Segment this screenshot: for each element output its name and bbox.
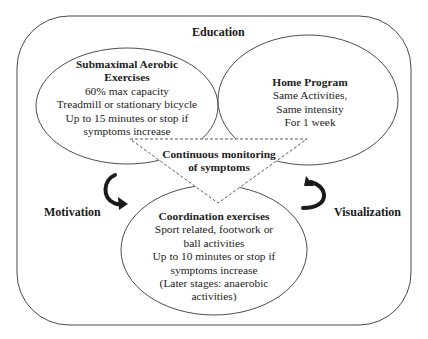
node-line: Sport related, footwork or bbox=[139, 223, 289, 236]
node-line: symptoms increase bbox=[37, 125, 217, 138]
curved-arrow-right-icon bbox=[303, 176, 324, 208]
curved-arrow-left-icon bbox=[105, 175, 128, 210]
visualization-label: Visualization bbox=[334, 205, 401, 220]
node-line: Treadmill or stationary bicycle bbox=[37, 98, 217, 111]
node-submaximal-aerobic: Submaximal Aerobic Exercises 60% max cap… bbox=[37, 58, 217, 138]
node-home-program: Home Program Same Activities, Same inten… bbox=[250, 76, 370, 130]
node-title: Submaximal Aerobic bbox=[37, 58, 217, 71]
node-line: Up to 15 minutes or stop if bbox=[37, 112, 217, 125]
monitoring-label: Continuous monitoring of symptoms bbox=[154, 148, 284, 175]
node-line: (Later stages: anaerobic bbox=[139, 277, 289, 290]
node-line: ball activities bbox=[139, 237, 289, 250]
node-line: symptoms increase bbox=[139, 264, 289, 277]
motivation-label: Motivation bbox=[44, 205, 101, 220]
node-title: Exercises bbox=[37, 71, 217, 84]
node-title: Coordination exercises bbox=[139, 210, 289, 223]
node-line: Same Activities, bbox=[250, 89, 370, 102]
node-line: 60% max capacity bbox=[37, 85, 217, 98]
monitoring-title: of symptoms bbox=[154, 161, 284, 174]
node-title: Home Program bbox=[250, 76, 370, 89]
node-line: Up to 10 minutes or stop if bbox=[139, 250, 289, 263]
monitoring-title: Continuous monitoring bbox=[154, 148, 284, 161]
node-line: Same intensity bbox=[250, 103, 370, 116]
node-coordination-exercises: Coordination exercises Sport related, fo… bbox=[139, 210, 289, 304]
node-line: For 1 week bbox=[250, 116, 370, 129]
education-label: Education bbox=[192, 25, 245, 40]
node-line: activities) bbox=[139, 290, 289, 303]
